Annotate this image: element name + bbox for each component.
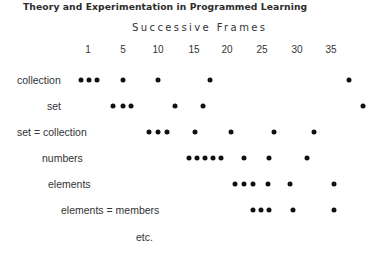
data-dot (312, 130, 317, 135)
x-tick-label: 25 (256, 44, 267, 55)
data-dot (87, 78, 92, 83)
data-dot (259, 208, 264, 213)
row-label: collection (17, 74, 61, 86)
data-dot (208, 78, 213, 83)
x-tick-label: 35 (325, 44, 336, 55)
data-dot (233, 182, 238, 187)
data-dot (211, 156, 216, 161)
data-dot (187, 156, 192, 161)
data-dot (347, 78, 352, 83)
chart-header: Successive Frames (132, 22, 267, 33)
data-dot (288, 182, 293, 187)
data-dot (95, 78, 100, 83)
data-dot (203, 156, 208, 161)
x-tick-label: 1 (85, 44, 91, 55)
page-title: Theory and Experimentation in Programmed… (23, 1, 307, 12)
data-dot (195, 156, 200, 161)
row-label: elements (48, 178, 91, 190)
data-dot (79, 78, 84, 83)
x-tick-label: 20 (221, 44, 232, 55)
data-dot (267, 156, 272, 161)
x-tick-label: 15 (188, 44, 199, 55)
data-dot (332, 208, 337, 213)
data-dot (266, 182, 271, 187)
data-dot (361, 104, 366, 109)
data-dot (251, 208, 256, 213)
data-dot (129, 104, 134, 109)
data-dot (272, 130, 277, 135)
data-dot (332, 182, 337, 187)
data-dot (111, 104, 116, 109)
data-dot (305, 156, 310, 161)
data-dot (147, 130, 152, 135)
data-dot (173, 104, 178, 109)
x-tick-label: 5 (120, 44, 126, 55)
data-dot (251, 182, 256, 187)
data-dot (193, 130, 198, 135)
data-dot (156, 130, 161, 135)
row-label: etc. (136, 231, 153, 243)
x-tick-label: 10 (152, 44, 163, 55)
data-dot (242, 156, 247, 161)
data-dot (165, 130, 170, 135)
data-dot (267, 208, 272, 213)
data-dot (242, 182, 247, 187)
data-dot (291, 208, 296, 213)
data-dot (121, 78, 126, 83)
row-label: set (47, 100, 61, 112)
row-label: numbers (42, 152, 83, 164)
x-tick-label: 30 (291, 44, 302, 55)
data-dot (229, 130, 234, 135)
data-dot (219, 156, 224, 161)
data-dot (201, 104, 206, 109)
row-label: elements = members (61, 204, 159, 216)
row-label: set = collection (17, 126, 87, 138)
data-dot (156, 78, 161, 83)
data-dot (121, 104, 126, 109)
